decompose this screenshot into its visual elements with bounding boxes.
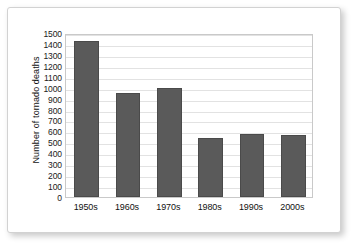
y-axis-tick-labels: 1500140013001200110010009008007006005004… bbox=[27, 34, 62, 198]
y-axis-tick-label: 200 bbox=[27, 172, 62, 181]
chart-figure: Number of tornado deaths 150014001300120… bbox=[0, 0, 356, 247]
y-axis-tick-label: 1300 bbox=[27, 51, 62, 60]
y-axis-tick-label: 1400 bbox=[27, 40, 62, 49]
y-axis-tick-label: 1000 bbox=[27, 84, 62, 93]
bar-series bbox=[66, 35, 312, 197]
y-axis-tick-label: 1100 bbox=[27, 73, 62, 82]
y-axis-tick-label: 900 bbox=[27, 95, 62, 104]
y-axis-tick-label: 700 bbox=[27, 117, 62, 126]
x-axis-tick-label: 1980s bbox=[189, 202, 230, 213]
y-axis-tick-label: 600 bbox=[27, 128, 62, 137]
y-axis-tick-label: 100 bbox=[27, 183, 62, 192]
y-axis-tick-label: 1500 bbox=[27, 30, 62, 39]
bar-2000s bbox=[281, 135, 306, 197]
bar-1990s bbox=[240, 134, 265, 197]
bar-1960s bbox=[116, 93, 141, 197]
x-axis-tick-label: 1970s bbox=[148, 202, 189, 213]
bar-1970s bbox=[157, 88, 182, 197]
y-axis-tick-label: 400 bbox=[27, 150, 62, 159]
chart-card: Number of tornado deaths 150014001300120… bbox=[7, 7, 341, 233]
y-axis-tick-label: 300 bbox=[27, 161, 62, 170]
bar-1980s bbox=[198, 138, 223, 197]
x-axis-tick-label: 1960s bbox=[106, 202, 147, 213]
x-axis-tick-labels: 1950s1960s1970s1980s1990s2000s bbox=[65, 202, 313, 218]
y-axis-tick-label: 800 bbox=[27, 106, 62, 115]
y-axis-tick-label: 1200 bbox=[27, 62, 62, 71]
y-axis-tick-label: 500 bbox=[27, 139, 62, 148]
x-axis-tick-label: 1950s bbox=[65, 202, 106, 213]
x-axis-tick-label: 2000s bbox=[272, 202, 313, 213]
x-axis-tick-label: 1990s bbox=[230, 202, 271, 213]
plot-area bbox=[65, 34, 313, 198]
bar-1950s bbox=[74, 41, 99, 197]
y-axis-tick-label: 0 bbox=[27, 194, 62, 203]
